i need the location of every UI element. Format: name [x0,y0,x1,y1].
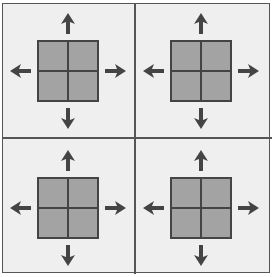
arrow-down-icon [193,107,209,129]
grid-line-horizontal [39,207,97,209]
grid-square [37,40,99,102]
horizontal-divider [2,137,272,139]
arrow-down-icon [193,244,209,266]
arrow-right-icon [104,63,126,79]
grid-line-horizontal [172,207,230,209]
arrow-left-icon [143,200,165,216]
arrow-left-icon [143,63,165,79]
arrow-right-icon [237,200,259,216]
grid-line-horizontal [172,70,230,72]
arrow-up-icon [60,13,76,35]
arrow-down-icon [60,244,76,266]
grid-square [170,40,232,102]
arrow-right-icon [104,200,126,216]
grid-square [37,177,99,239]
arrow-left-icon [10,200,32,216]
arrow-down-icon [60,107,76,129]
grid-square [170,177,232,239]
arrow-right-icon [237,63,259,79]
arrow-left-icon [10,63,32,79]
arrow-up-icon [193,150,209,172]
arrow-up-icon [60,150,76,172]
grid-line-horizontal [39,70,97,72]
arrow-up-icon [193,13,209,35]
